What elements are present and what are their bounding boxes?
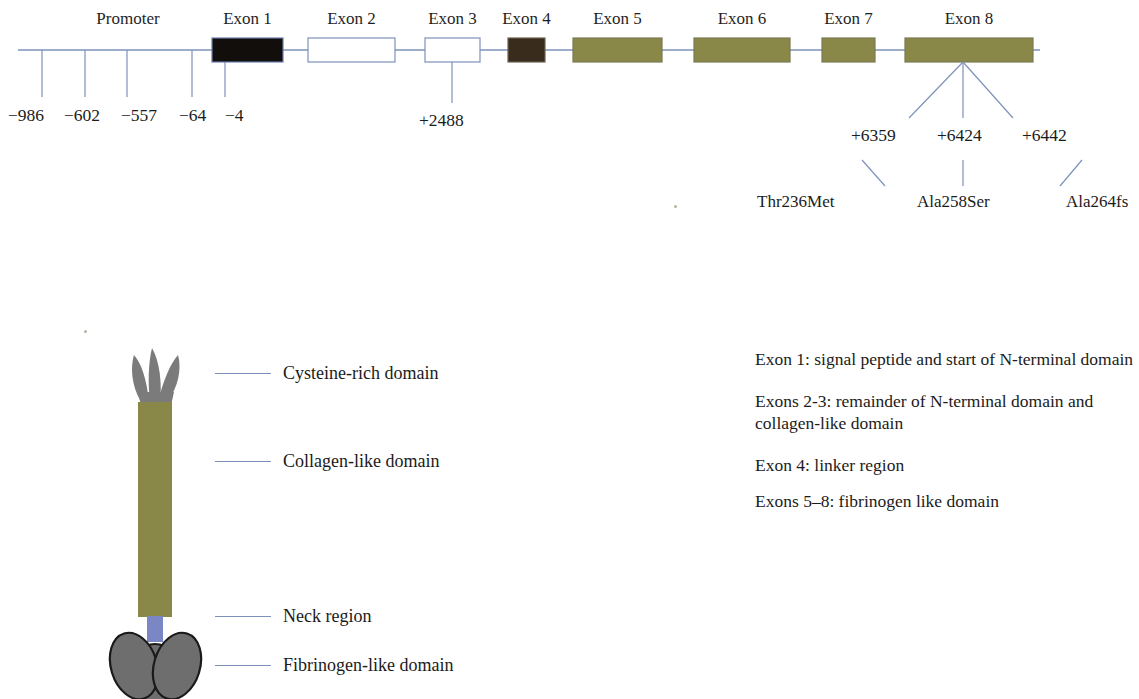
legend-label-4: Fibrinogen-like domain [283, 655, 453, 675]
protein-domain-diagram [90, 330, 270, 699]
legend-label-3: Neck region [283, 606, 371, 626]
promoter-position-label-4: −64 [179, 105, 206, 125]
exon-function-notes: Exon 1: signal peptide and start of N-te… [755, 348, 1139, 512]
mutation-connector-1 [862, 160, 885, 186]
exon-box-5 [573, 38, 662, 62]
intron-position-label-1: +2488 [419, 110, 464, 130]
scan-speck [84, 330, 87, 333]
mutation-label-1: Thr236Met [757, 192, 834, 212]
mutation-connector-group [862, 160, 1082, 186]
legend-leader-line-2 [215, 461, 271, 462]
exon-label-7: Exon 7 [789, 9, 909, 29]
legend-leader-line-1 [215, 373, 271, 374]
neck-region-shape [147, 616, 163, 642]
exon-label-8: Exon 8 [909, 9, 1029, 29]
legend-leader-line-4 [215, 665, 271, 666]
collagen-like-domain-shape [138, 402, 172, 617]
promoter-label: Promoter [68, 9, 188, 29]
exon-box-4 [508, 38, 545, 62]
exon-label-5: Exon 5 [558, 9, 678, 29]
exon8-variant-fan [909, 62, 1013, 118]
exon8-position-label-1: +6359 [851, 125, 896, 145]
exon8-position-label-2: +6424 [937, 125, 982, 145]
legend-leader-line-3 [215, 616, 271, 617]
exon-box-7 [822, 38, 875, 62]
legend-label-1: Cysteine-rich domain [283, 363, 438, 383]
note-3: Exon 4: linker region [755, 454, 1139, 476]
promoter-position-label-3: −557 [121, 105, 157, 125]
cysteine-rich-domain-shape [132, 348, 180, 410]
note-1: Exon 1: signal peptide and start of N-te… [755, 348, 1139, 370]
scan-speck [674, 205, 677, 208]
exon-box-1 [212, 38, 283, 62]
promoter-position-label-2: −602 [64, 105, 100, 125]
note-2: Exons 2-3: remainder of N-terminal domai… [755, 390, 1139, 434]
exon-label-6: Exon 6 [682, 9, 802, 29]
figure-canvas: Exon 1Exon 2Exon 3Exon 4Exon 5Exon 6Exon… [0, 0, 1139, 699]
exon-box-6 [694, 38, 790, 62]
exon8-fan-line-1 [909, 62, 963, 118]
mutation-label-3: Ala264fs [1066, 192, 1128, 212]
mutation-label-2: Ala258Ser [917, 192, 990, 212]
exon-box-3 [425, 38, 480, 62]
promoter-position-label-5: −4 [225, 105, 244, 125]
exon-box-8 [905, 38, 1033, 62]
exon8-fan-line-3 [963, 62, 1013, 118]
exon8-position-label-3: +6442 [1022, 125, 1067, 145]
mutation-connector-3 [1060, 160, 1082, 186]
legend-label-2: Collagen-like domain [283, 451, 439, 471]
note-4: Exons 5–8: fibrinogen like domain [755, 490, 1139, 512]
promoter-position-label-1: −986 [8, 105, 44, 125]
promoter-tick-group [42, 50, 225, 97]
exon-box-group [212, 38, 1033, 62]
exon-label-1: Exon 1 [188, 9, 308, 29]
exon-box-2 [308, 38, 395, 62]
